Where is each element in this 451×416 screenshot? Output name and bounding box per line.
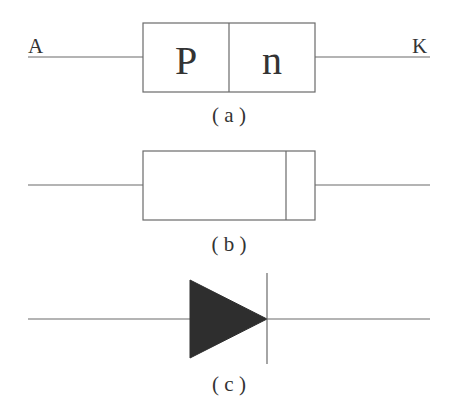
cathode-label: K	[412, 34, 427, 58]
figure-a-pn-junction: A K P n ( a )	[28, 23, 430, 127]
n-region-label: n	[262, 38, 282, 83]
diode-diagram: A K P n ( a ) ( b ) ( c )	[0, 0, 451, 416]
anode-label: A	[28, 34, 44, 58]
caption-a: ( a )	[212, 103, 246, 127]
caption-c: ( c )	[212, 372, 246, 396]
p-region-label: P	[175, 38, 197, 83]
caption-b: ( b )	[212, 232, 247, 256]
figure-c-diode-symbol: ( c )	[28, 273, 430, 396]
figure-b-diode-package: ( b )	[28, 151, 430, 256]
diode-body	[143, 151, 315, 220]
diode-triangle-icon	[190, 280, 267, 358]
